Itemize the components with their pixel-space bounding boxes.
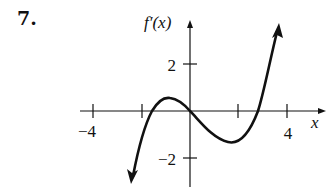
y-tick-label-2: 2	[168, 56, 177, 75]
y-axis-label: f′(x)	[144, 13, 172, 32]
problem-number: 7.	[17, 7, 37, 29]
x-tick-label--4: −4	[78, 122, 97, 141]
x-axis-label: x	[310, 113, 319, 132]
x-tick-label-4: 4	[284, 124, 293, 143]
figure: 7. −4 4 x f′(x) 2 −2	[0, 0, 334, 187]
graph: −4 4 x f′(x) 2 −2	[0, 0, 334, 187]
y-axis-arrow-icon	[187, 20, 193, 28]
y-tick-label--2: −2	[158, 150, 176, 169]
curve-arrow-up-icon	[272, 23, 283, 38]
derivative-curve	[133, 32, 277, 176]
curve-arrow-down-icon	[127, 169, 138, 184]
x-axis-arrow-icon	[318, 108, 326, 114]
